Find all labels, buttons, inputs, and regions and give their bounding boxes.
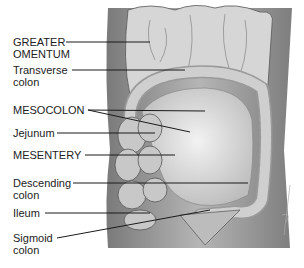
label-mesocolon: MESOCOLON: [13, 104, 85, 116]
label-descending-colon: Descending colon: [13, 177, 71, 201]
label-jejunum: Jejunum: [13, 127, 55, 139]
label-transverse-colon: Transverse colon: [13, 64, 68, 88]
anatomy-figure: GREATER OMENTUM Transverse colon MESOCOL…: [0, 0, 304, 268]
label-greater-omentum: GREATER OMENTUM: [13, 36, 70, 60]
label-ileum: Ileum: [13, 207, 40, 219]
label-mesentery: MESENTERY: [13, 149, 81, 161]
label-sigmoid-colon: Sigmoid colon: [13, 232, 53, 256]
